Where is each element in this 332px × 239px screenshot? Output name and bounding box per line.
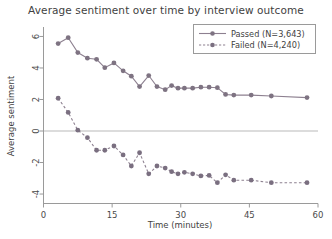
data-point-passed <box>269 94 274 99</box>
data-point-passed <box>137 84 142 89</box>
data-point-failed <box>129 164 134 169</box>
data-point-failed <box>163 166 168 171</box>
data-point-failed <box>223 172 228 177</box>
data-point-passed <box>102 65 107 70</box>
x-tick-label: 15 <box>107 210 118 220</box>
data-point-passed <box>305 95 310 100</box>
data-point-failed <box>137 150 142 155</box>
data-point-failed <box>176 171 181 176</box>
data-point-failed <box>155 164 160 169</box>
data-point-passed <box>190 86 195 91</box>
y-axis-ticks: 6420-2-4 <box>32 34 44 199</box>
data-point-failed <box>215 180 220 185</box>
data-point-failed <box>198 174 203 179</box>
legend-label-failed: Failed (N=4,240) <box>231 40 300 50</box>
chart-plot-area: 015304560 6420-2-4 Time (minutes) Averag… <box>0 0 332 239</box>
data-point-passed <box>223 92 228 97</box>
data-point-failed <box>182 170 187 175</box>
data-point-failed <box>94 148 99 153</box>
x-axis-title: Time (minutes) <box>147 220 213 230</box>
chart-legend: Passed (N=3,643) Failed (N=4,240) <box>194 25 316 54</box>
data-point-passed <box>249 93 254 98</box>
data-point-failed <box>112 144 117 149</box>
data-point-failed <box>190 171 195 176</box>
x-tick-label: 60 <box>313 210 324 220</box>
y-tick-label: -2 <box>32 158 42 166</box>
data-point-failed <box>169 169 174 174</box>
y-axis-title: Average sentiment <box>6 75 16 156</box>
data-point-passed <box>85 56 90 61</box>
data-point-passed <box>155 84 160 89</box>
data-point-failed <box>146 171 151 176</box>
series-line-failed <box>58 98 307 182</box>
y-tick-label: 4 <box>32 65 42 70</box>
y-tick-label: -4 <box>32 190 42 198</box>
data-point-passed <box>112 61 117 66</box>
data-point-failed <box>121 153 126 158</box>
data-point-failed <box>249 178 254 183</box>
data-point-passed <box>66 35 71 40</box>
data-point-failed <box>269 180 274 185</box>
x-tick-label: 30 <box>175 210 186 220</box>
y-tick-label: 0 <box>32 128 42 133</box>
data-point-passed <box>198 85 203 90</box>
data-point-failed <box>305 180 310 185</box>
data-point-passed <box>231 93 236 98</box>
data-point-passed <box>94 57 99 62</box>
data-point-passed <box>75 50 80 55</box>
data-point-passed <box>176 86 181 91</box>
y-tick-label: 6 <box>32 34 42 39</box>
data-point-failed <box>85 135 90 140</box>
legend-label-passed: Passed (N=3,643) <box>231 29 305 39</box>
x-axis-ticks: 015304560 <box>41 204 324 220</box>
legend-marker-passed <box>210 31 215 36</box>
data-point-passed <box>163 87 168 92</box>
data-point-passed <box>146 73 151 78</box>
data-point-passed <box>56 41 61 46</box>
data-point-failed <box>231 178 236 183</box>
chart-figure: Average sentiment over time by interview… <box>0 0 332 239</box>
y-tick-label: 2 <box>32 97 42 102</box>
data-point-passed <box>182 86 187 91</box>
data-point-passed <box>207 85 212 90</box>
legend-marker-failed <box>210 43 215 48</box>
data-point-passed <box>129 74 134 79</box>
x-tick-label: 0 <box>41 210 46 220</box>
x-tick-label: 45 <box>244 210 255 220</box>
data-point-failed <box>66 110 71 115</box>
series-markers-group <box>56 35 310 185</box>
data-point-passed <box>215 85 220 90</box>
data-point-failed <box>75 128 80 133</box>
data-point-passed <box>169 83 174 88</box>
data-point-failed <box>56 96 61 101</box>
data-point-passed <box>121 68 126 73</box>
data-point-failed <box>102 148 107 153</box>
data-point-failed <box>207 173 212 178</box>
